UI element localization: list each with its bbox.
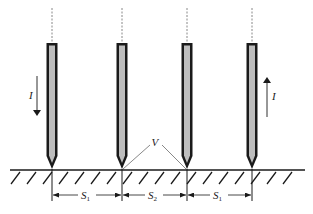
spacing-s1-left: S1 [53, 189, 121, 203]
electrode-4 [247, 43, 258, 169]
four-probe-diagram: I I V [0, 0, 313, 214]
svg-text:S1: S1 [81, 189, 91, 203]
svg-text:S1: S1 [213, 189, 223, 203]
svg-text:S2: S2 [148, 189, 158, 203]
electrode-2 [117, 43, 128, 169]
spacing-label-2-sub: 2 [154, 195, 158, 203]
hatching [11, 172, 292, 184]
current-label-left: I [28, 89, 34, 101]
sample-surface [10, 170, 305, 184]
voltage-label: V [152, 136, 160, 148]
current-arrow-right: I [267, 80, 277, 117]
spacing-s1-right: S1 [188, 189, 251, 203]
electrode-1 [47, 43, 58, 169]
current-arrow-left: I [28, 76, 37, 113]
voltage-indicator: V [123, 136, 186, 169]
spacing-label-1-sub: 1 [87, 195, 91, 203]
electrodes [47, 43, 258, 169]
lead-wires [52, 8, 252, 42]
spacing-label-3-sub: 1 [219, 195, 223, 203]
current-label-right: I [271, 90, 277, 102]
electrode-3 [182, 43, 193, 169]
spacing-s2: S2 [123, 189, 186, 203]
spacing-dimensions: S1 S2 S1 [53, 189, 251, 203]
